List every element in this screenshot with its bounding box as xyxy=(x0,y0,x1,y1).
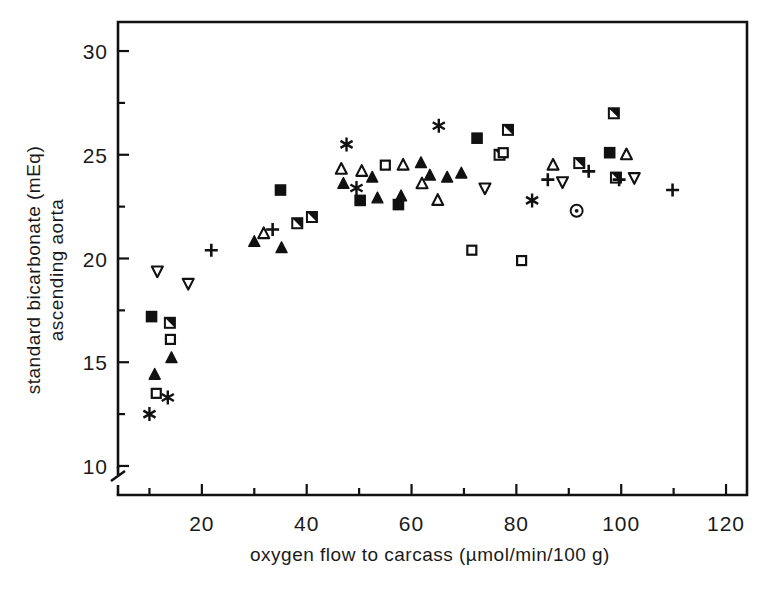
data-point xyxy=(526,193,538,207)
data-point xyxy=(605,148,615,158)
marker-open-square xyxy=(517,256,526,265)
y-tick-label: 20 xyxy=(83,248,108,271)
data-point xyxy=(432,194,443,205)
data-point xyxy=(456,167,467,178)
marker-asterisk xyxy=(526,193,538,207)
data-point xyxy=(166,335,175,344)
data-point xyxy=(433,119,445,133)
marker-asterisk xyxy=(340,137,352,151)
marker-filled-triangle-up xyxy=(456,167,467,178)
marker-filled-triangle-up xyxy=(338,178,349,189)
data-point xyxy=(621,149,632,160)
data-point xyxy=(367,171,378,182)
marker-filled-triangle-up xyxy=(424,169,435,180)
data-point xyxy=(183,279,194,290)
data-markers xyxy=(143,108,679,421)
marker-open-triangle-up xyxy=(548,159,559,170)
marker-plus xyxy=(541,173,554,186)
marker-filled-square xyxy=(605,148,615,158)
y-tick-label: 30 xyxy=(83,40,108,63)
marker-asterisk xyxy=(143,407,155,421)
data-point xyxy=(629,173,640,184)
marker-open-triangle-up xyxy=(336,163,347,174)
y-tick-label: 15 xyxy=(83,351,108,374)
data-point xyxy=(340,137,352,151)
marker-open-square xyxy=(467,246,476,255)
x-tick-label: 60 xyxy=(399,512,424,535)
data-point xyxy=(166,352,177,363)
series-half-filled-square xyxy=(165,108,621,328)
x-tick-label: 20 xyxy=(189,512,214,535)
x-axis-label: oxygen flow to carcass (µmol/min/100 g) xyxy=(250,544,610,565)
plot-frame xyxy=(111,22,747,495)
marker-filled-square xyxy=(147,312,157,322)
x-tick-label: 80 xyxy=(504,512,529,535)
marker-open-triangle-down xyxy=(479,183,490,194)
data-point xyxy=(149,368,160,379)
series-dotted-circle xyxy=(571,205,583,217)
data-point xyxy=(147,312,157,322)
axis-ticks xyxy=(118,51,726,495)
data-point xyxy=(381,161,390,170)
data-point xyxy=(152,389,161,398)
marker-open-triangle-down xyxy=(557,177,568,188)
marker-filled-triangle-up xyxy=(372,192,383,203)
data-point xyxy=(609,108,619,118)
marker-open-triangle-up xyxy=(356,165,367,176)
figure-root: 204060801001201015202530 oxygen flow to … xyxy=(0,0,782,590)
x-tick-label: 120 xyxy=(707,512,745,535)
x-tick-label: 40 xyxy=(294,512,319,535)
data-point xyxy=(499,148,508,157)
x-tick-label: 100 xyxy=(602,512,640,535)
marker-open-triangle-up xyxy=(621,149,632,160)
y-tick-label: 10 xyxy=(83,455,108,478)
marker-filled-triangle-up xyxy=(367,171,378,182)
marker-asterisk xyxy=(162,390,174,404)
y-axis-label-line1: standard bicarbonate (mEq) xyxy=(23,146,44,395)
marker-filled-square xyxy=(355,195,365,205)
data-point xyxy=(350,181,362,195)
plot-frame-border xyxy=(118,22,747,495)
marker-plus xyxy=(205,244,218,257)
data-point xyxy=(472,133,482,143)
data-point xyxy=(424,169,435,180)
marker-filled-triangle-up xyxy=(149,368,160,379)
marker-open-triangle-up xyxy=(398,159,409,170)
marker-open-triangle-up xyxy=(432,194,443,205)
data-point xyxy=(336,163,347,174)
data-point xyxy=(442,171,453,182)
data-point xyxy=(396,190,407,201)
marker-filled-triangle-up xyxy=(166,352,177,363)
marker-filled-triangle-up xyxy=(276,242,287,253)
marker-open-triangle-down xyxy=(183,279,194,290)
marker-open-triangle-down xyxy=(152,266,163,277)
marker-filled-triangle-up xyxy=(396,190,407,201)
marker-open-square xyxy=(166,335,175,344)
data-point xyxy=(372,192,383,203)
data-point xyxy=(355,195,365,205)
marker-filled-square xyxy=(275,185,285,195)
data-point xyxy=(666,184,679,197)
marker-open-square xyxy=(381,161,390,170)
data-point xyxy=(165,318,175,328)
marker-asterisk xyxy=(433,119,445,133)
y-axis-break-icon xyxy=(111,467,125,495)
data-point xyxy=(398,159,409,170)
data-point xyxy=(205,244,218,257)
data-point xyxy=(479,183,490,194)
marker-plus xyxy=(666,184,679,197)
data-point xyxy=(467,246,476,255)
data-point xyxy=(571,205,583,217)
marker-circle-center-dot xyxy=(575,209,579,213)
series-filled-triangle-up xyxy=(149,157,467,379)
data-point xyxy=(292,218,302,228)
axis-tick-labels: 204060801001201015202530 xyxy=(83,40,745,535)
data-point xyxy=(541,173,554,186)
data-point xyxy=(415,157,426,168)
data-point xyxy=(517,256,526,265)
data-point xyxy=(574,158,584,168)
marker-filled-square xyxy=(472,133,482,143)
data-point xyxy=(307,212,317,222)
series-plus xyxy=(205,165,679,257)
series-open-triangle-down xyxy=(152,173,640,290)
